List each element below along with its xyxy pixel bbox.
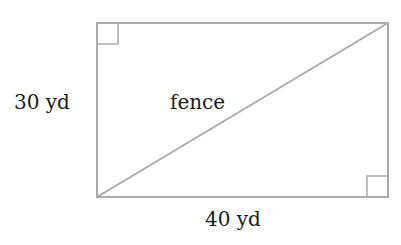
width-label: 40 yd (205, 207, 261, 231)
right-angle-marker-bottom-right (367, 176, 388, 197)
fence-diagonal (97, 23, 388, 197)
rectangle-diagram (0, 0, 401, 245)
diagonal-label: fence (170, 90, 225, 114)
right-angle-marker-top-left (97, 23, 118, 44)
height-label: 30 yd (14, 90, 70, 114)
